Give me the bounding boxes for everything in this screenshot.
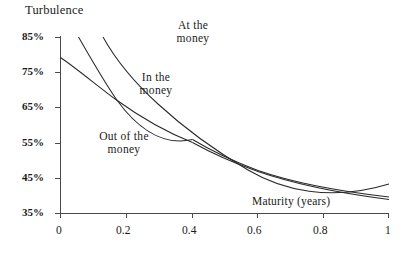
turbulence-chart: Turbulence 85% 75% 65% 55% 45% 35% 0 0.2… — [0, 0, 406, 255]
x-tick-label-0-2: 0.2 — [116, 224, 130, 236]
annotation-out-of-the-money-line1: Out of the — [86, 130, 162, 142]
annotation-out-of-the-money-line2: money — [86, 143, 162, 155]
y-tick-label-55: 55% — [22, 137, 44, 149]
y-tick-label-85: 85% — [22, 31, 44, 43]
x-tick-label-0-8: 0.8 — [313, 224, 327, 236]
annotation-in-the-money-line1: In the — [129, 71, 183, 83]
y-tick-label-65: 65% — [22, 101, 44, 113]
y-axis-ticks — [55, 38, 60, 214]
x-tick-label-0-6: 0.6 — [247, 224, 261, 236]
y-tick-label-45: 45% — [22, 172, 44, 184]
x-tick-label-0: 0 — [56, 224, 62, 236]
x-tick-label-1: 1 — [385, 224, 391, 236]
series-line-at-the-money — [103, 37, 389, 193]
y-tick-label-35: 35% — [22, 207, 44, 219]
y-tick-label-75: 75% — [22, 66, 44, 78]
page-title: Turbulence — [25, 4, 83, 18]
x-tick-label-0-4: 0.4 — [182, 224, 196, 236]
annotation-at-the-money-line1: At the — [165, 19, 221, 31]
annotation-at-the-money-line2: money — [165, 32, 221, 44]
series-line-in-the-money-tail — [193, 140, 390, 198]
x-axis-title: Maturity (years) — [252, 195, 330, 207]
annotation-in-the-money-line2: money — [129, 84, 183, 96]
x-axis-ticks — [61, 214, 389, 219]
